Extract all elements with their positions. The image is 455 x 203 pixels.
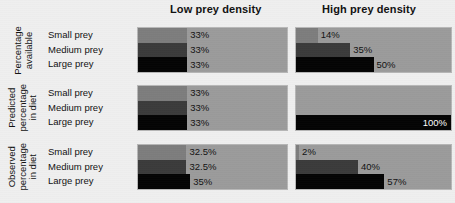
bar-medium-prey <box>296 160 358 175</box>
category-legend-percentage-available: Small preyMedium preyLarge prey <box>48 27 134 73</box>
bar-value-medium-prey: 33% <box>187 45 209 55</box>
bar-track-large-prey: 50% <box>296 57 451 72</box>
row-label-predicted-percentage-in-diet: Predictedpercentagein diet <box>0 85 46 131</box>
bar-track-large-prey: 100% <box>296 115 451 130</box>
column-header-high-prey-density: High prey density <box>322 3 416 15</box>
bar-track-medium-prey <box>296 101 451 116</box>
chart-panel-percentage-available-low: 33%33%33% <box>138 28 287 72</box>
category-label-medium-prey: Medium prey <box>48 43 134 58</box>
row-label-text: Predictedpercentagein diet <box>7 84 39 132</box>
bar-small-prey <box>138 145 186 160</box>
bar-track-small-prey: 32.5% <box>138 145 287 160</box>
bar-medium-prey <box>138 43 187 58</box>
chart-panel-percentage-available-high: 14%35%50% <box>296 28 451 72</box>
figure-row-predicted-percentage-in-diet: Predictedpercentagein dietSmall preyMedi… <box>0 85 455 131</box>
column-header-low-prey-density: Low prey density <box>170 3 261 15</box>
category-label-small-prey: Small prey <box>48 28 134 43</box>
bar-value-small-prey: 2% <box>299 147 316 157</box>
category-label-large-prey: Large prey <box>48 115 134 130</box>
bar-medium-prey <box>138 160 186 175</box>
bar-track-large-prey: 35% <box>138 174 287 189</box>
bar-value-large-prey: 57% <box>384 177 406 187</box>
category-legend-observed-percentage-in-diet: Small preyMedium preyLarge prey <box>48 144 134 190</box>
figure-row-percentage-available: PercentageavailableSmall preyMedium prey… <box>0 27 455 73</box>
bar-track-medium-prey: 33% <box>138 43 287 58</box>
row-label-line: Percentage <box>13 26 24 75</box>
chart-panel-predicted-percentage-in-diet-high: 100% <box>296 86 451 130</box>
bar-medium-prey <box>296 43 350 58</box>
category-label-small-prey: Small prey <box>48 86 134 101</box>
row-label-line: in diet <box>28 143 39 191</box>
row-label-text: Observedpercentagein diet <box>7 143 39 191</box>
chart-panel-observed-percentage-in-diet-low: 32.5%32.5%35% <box>138 145 287 189</box>
chart-panel-predicted-percentage-in-diet-low: 33%33%33% <box>138 86 287 130</box>
bar-large-prey <box>138 174 190 189</box>
bar-track-small-prey: 33% <box>138 86 287 101</box>
figure-row-observed-percentage-in-diet: Observedpercentagein dietSmall preyMediu… <box>0 144 455 191</box>
bar-small-prey <box>296 28 318 43</box>
bar-value-small-prey: 33% <box>187 88 209 98</box>
bar-track-small-prey <box>296 86 451 101</box>
bar-large-prey <box>138 115 187 130</box>
bar-track-small-prey: 33% <box>138 28 287 43</box>
category-label-medium-prey: Medium prey <box>48 160 134 175</box>
bar-track-large-prey: 57% <box>296 174 451 189</box>
bar-track-small-prey: 14% <box>296 28 451 43</box>
bar-track-large-prey: 33% <box>138 57 287 72</box>
bar-value-small-prey: 14% <box>318 30 340 40</box>
bar-small-prey <box>138 28 187 43</box>
row-label-text: Percentageavailable <box>13 26 34 75</box>
category-label-medium-prey: Medium prey <box>48 101 134 116</box>
category-label-large-prey: Large prey <box>48 174 134 189</box>
category-legend-predicted-percentage-in-diet: Small preyMedium preyLarge prey <box>48 85 134 131</box>
row-label-observed-percentage-in-diet: Observedpercentagein diet <box>0 144 46 190</box>
bar-value-medium-prey: 35% <box>350 45 372 55</box>
bar-value-small-prey: 33% <box>187 30 209 40</box>
bar-value-medium-prey: 40% <box>358 162 380 172</box>
bar-large-prey <box>296 174 384 189</box>
bar-value-large-prey: 33% <box>187 118 209 128</box>
category-label-large-prey: Large prey <box>48 57 134 72</box>
bar-value-medium-prey: 32.5% <box>186 162 216 172</box>
bar-value-medium-prey: 33% <box>187 103 209 113</box>
bar-value-large-prey: 50% <box>374 60 396 70</box>
bar-large-prey <box>296 57 374 72</box>
bar-value-large-prey: 33% <box>187 60 209 70</box>
row-label-line: in diet <box>28 84 39 132</box>
bar-track-medium-prey: 35% <box>296 43 451 58</box>
bar-small-prey <box>138 86 187 101</box>
row-label-percentage-available: Percentageavailable <box>0 27 46 73</box>
bar-medium-prey <box>138 101 187 116</box>
bar-track-medium-prey: 40% <box>296 160 451 175</box>
bar-value-large-prey: 35% <box>190 177 212 187</box>
bar-track-medium-prey: 33% <box>138 101 287 116</box>
bar-value-large-prey: 100% <box>423 118 451 128</box>
bar-value-small-prey: 32.5% <box>186 147 216 157</box>
row-label-line: available <box>23 26 34 75</box>
bar-track-large-prey: 33% <box>138 115 287 130</box>
bar-large-prey <box>138 57 187 72</box>
bar-track-small-prey: 2% <box>296 145 451 160</box>
bar-track-medium-prey: 32.5% <box>138 160 287 175</box>
category-label-small-prey: Small prey <box>48 145 134 160</box>
chart-panel-observed-percentage-in-diet-high: 2%40%57% <box>296 145 451 189</box>
